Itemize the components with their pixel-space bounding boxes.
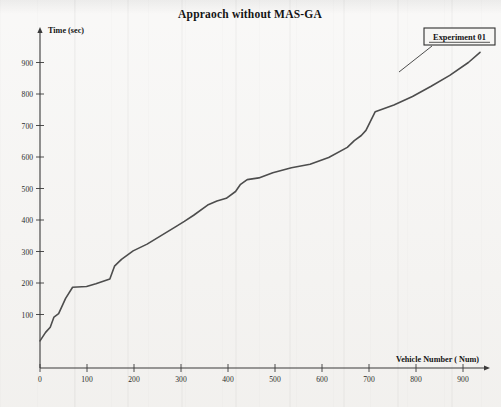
y-tick-label: 500 (22, 185, 34, 194)
y-tick-label: 800 (22, 90, 34, 99)
chart-title: Appraoch without MAS-GA (178, 8, 322, 21)
x-tick-label: 0 (38, 375, 42, 384)
y-tick-label: 400 (22, 216, 34, 225)
x-tick-label: 400 (222, 375, 234, 384)
series-line-experiment-01 (40, 52, 480, 341)
y-tick-label: 100 (22, 311, 34, 320)
line-chart: Appraoch without MAS-GA 900 800 700 600 … (0, 0, 501, 407)
y-tick-label: 300 (22, 248, 34, 257)
y-tick-label: 900 (22, 59, 34, 68)
x-tick-label: 900 (457, 375, 469, 384)
y-tick-label: 700 (22, 122, 34, 131)
x-tick-label: 500 (269, 375, 281, 384)
x-tick-label: 800 (410, 375, 422, 384)
x-axis-label: Vehicle Number ( Num) (396, 355, 479, 364)
x-axis: 0 100 200 300 400 500 600 700 800 900 Ve… (38, 355, 490, 384)
y-tick-label: 200 (22, 279, 34, 288)
legend-label: Experiment 01 (433, 33, 486, 42)
x-tick-label: 200 (128, 375, 140, 384)
x-tick-label: 300 (175, 375, 187, 384)
x-tick-label: 100 (81, 375, 93, 384)
scan-banding (75, 0, 452, 407)
legend-callout[interactable]: Experiment 01 (399, 28, 495, 72)
legend-leader-line (399, 46, 432, 72)
x-tick-label: 700 (363, 375, 375, 384)
y-tick-label: 600 (22, 153, 34, 162)
chart-figure: Appraoch without MAS-GA 900 800 700 600 … (0, 0, 501, 407)
y-axis-label: Time (sec) (48, 26, 84, 35)
x-tick-label: 600 (316, 375, 328, 384)
